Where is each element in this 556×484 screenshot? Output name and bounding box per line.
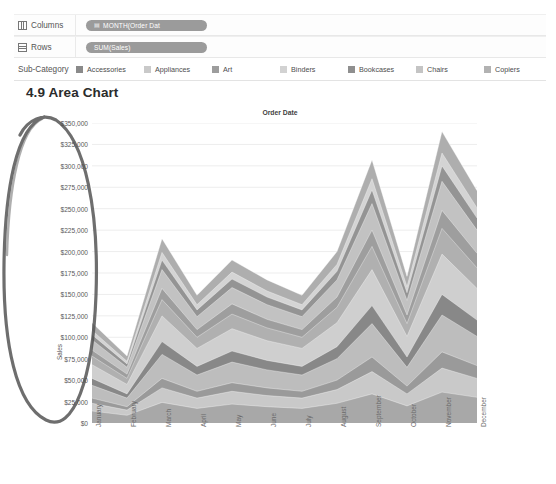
x-axis-tick-label: May: [235, 415, 242, 427]
sub-category-legend: Sub-Category AccessoriesAppliancesArtBin…: [14, 58, 546, 81]
legend-swatch-icon: [212, 66, 219, 73]
chart-column-header: Order Date: [14, 109, 546, 116]
legend-item-label: Appliances: [155, 65, 190, 74]
rows-grid-icon: [18, 43, 27, 52]
x-axis-tick-label: September: [375, 395, 382, 427]
legend-swatch-icon: [348, 66, 355, 73]
legend-item-list: AccessoriesAppliancesArtBindersBookcases…: [76, 65, 552, 74]
y-axis-tick-label: $0: [81, 420, 88, 427]
legend-item-appliances[interactable]: Appliances: [144, 65, 212, 74]
y-axis-tick-label: $250,000: [60, 205, 88, 212]
y-axis-tick-label: $175,000: [60, 270, 88, 277]
legend-item-bookcases[interactable]: Bookcases: [348, 65, 416, 74]
y-axis-tick-label: $200,000: [60, 248, 88, 255]
x-axis-tick-label: November: [445, 397, 452, 427]
x-axis-tick-label: March: [165, 409, 172, 427]
columns-shelf-field[interactable]: ▤ MONTH(Order Dat: [76, 15, 546, 35]
legend-item-accessories[interactable]: Accessories: [76, 65, 144, 74]
pill-month-order-date[interactable]: ▤ MONTH(Order Dat: [86, 20, 207, 31]
legend-item-label: Copiers: [495, 65, 520, 74]
x-axis-tick-label: October: [410, 404, 417, 427]
page-title: 4.9 Area Chart: [26, 85, 118, 100]
shelf-panel: Columns ▤ MONTH(Order Dat Rows SUM(Sales…: [14, 14, 546, 81]
legend-title: Sub-Category: [14, 65, 76, 74]
y-axis-tick-label: $100,000: [60, 334, 88, 341]
legend-item-label: Art: [223, 65, 232, 74]
columns-shelf[interactable]: Columns ▤ MONTH(Order Dat: [14, 14, 546, 36]
legend-item-chairs[interactable]: Chairs: [416, 65, 484, 74]
y-axis-tick-label: $125,000: [60, 312, 88, 319]
y-axis-tick-label: $225,000: [60, 227, 88, 234]
x-axis-tick-label: December: [480, 397, 487, 427]
pill-sum-sales[interactable]: SUM(Sales): [86, 42, 207, 53]
pill-month-order-date-label: MONTH(Order Dat: [103, 22, 160, 29]
rows-shelf-label: Rows: [14, 37, 76, 57]
y-axis-title: Sales: [56, 344, 63, 360]
legend-item-label: Binders: [291, 65, 315, 74]
y-axis-tick-label: $325,000: [60, 141, 88, 148]
plot-area: [92, 123, 477, 423]
y-axis-tick-label: $300,000: [60, 162, 88, 169]
legend-swatch-icon: [484, 66, 491, 73]
x-axis-tick-label: April: [200, 414, 207, 427]
y-axis-tick-label: $150,000: [60, 291, 88, 298]
columns-label-text: Columns: [31, 21, 63, 30]
legend-swatch-icon: [416, 66, 423, 73]
pill-sum-sales-label: SUM(Sales): [94, 44, 131, 51]
x-axis-tick-label: January: [95, 404, 102, 427]
area-chart: Order Date $350,000$325,000$300,000$275,…: [14, 105, 546, 480]
legend-item-copiers[interactable]: Copiers: [484, 65, 552, 74]
columns-shelf-label: Columns: [14, 15, 76, 35]
legend-swatch-icon: [144, 66, 151, 73]
y-axis-tick-label: $350,000: [60, 120, 88, 127]
x-axis-ticks: JanuaryFebruaryMarchAprilMayJuneJulyAugu…: [92, 425, 477, 481]
legend-item-binders[interactable]: Binders: [280, 65, 348, 74]
calendar-icon: ▤: [94, 22, 100, 28]
legend-swatch-icon: [280, 66, 287, 73]
x-axis-tick-label: February: [130, 401, 137, 427]
y-axis-ticks: $350,000$325,000$300,000$275,000$250,000…: [14, 123, 88, 423]
y-axis-tick-label: $275,000: [60, 184, 88, 191]
y-axis-tick-label: $50,000: [64, 377, 88, 384]
legend-item-label: Accessories: [87, 65, 126, 74]
x-axis-tick-label: June: [270, 413, 277, 427]
y-axis-tick-label: $75,000: [64, 355, 88, 362]
rows-shelf-field[interactable]: SUM(Sales): [76, 37, 546, 57]
legend-item-label: Bookcases: [359, 65, 394, 74]
rows-shelf[interactable]: Rows SUM(Sales): [14, 36, 546, 58]
x-axis-tick-label: July: [305, 415, 312, 427]
columns-grid-icon: [18, 21, 27, 30]
rows-label-text: Rows: [31, 43, 51, 52]
legend-item-label: Chairs: [427, 65, 448, 74]
x-axis-tick-label: August: [340, 407, 347, 427]
area-chart-svg: [92, 123, 477, 423]
legend-swatch-icon: [76, 66, 83, 73]
legend-item-art[interactable]: Art: [212, 65, 280, 74]
y-axis-tick-label: $25,000: [64, 398, 88, 405]
